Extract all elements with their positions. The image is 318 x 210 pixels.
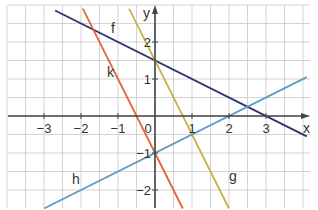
function-lines xyxy=(44,9,307,209)
x-axis-arrow-icon xyxy=(301,113,310,119)
y-tick-label: 1 xyxy=(144,72,151,87)
y-tick-label: −2 xyxy=(136,183,151,198)
x-tick-label: 1 xyxy=(188,121,195,136)
y-tick-label: −1 xyxy=(136,146,151,161)
grid xyxy=(7,5,310,208)
x-tick-label: −2 xyxy=(74,121,89,136)
line-h xyxy=(44,77,307,208)
y-axis-arrow-icon xyxy=(152,5,158,14)
x-tick-label: 2 xyxy=(225,121,232,136)
line-k xyxy=(83,9,183,209)
axes xyxy=(8,5,310,208)
x-tick-label: −1 xyxy=(111,121,126,136)
y-tick-label: 2 xyxy=(144,35,151,50)
label-k: k xyxy=(107,64,115,80)
x-axis-label: x xyxy=(303,120,310,136)
x-tick-label: 3 xyxy=(262,121,269,136)
x-tick-label: −3 xyxy=(37,121,52,136)
y-axis-label: y xyxy=(143,5,150,21)
label-h: h xyxy=(72,171,80,187)
x-tick-label: 0 xyxy=(144,121,151,136)
coordinate-plot: −3−2−1012321−1−2xyfgkh xyxy=(0,0,318,210)
label-f: f xyxy=(111,20,115,36)
label-g: g xyxy=(229,168,237,184)
